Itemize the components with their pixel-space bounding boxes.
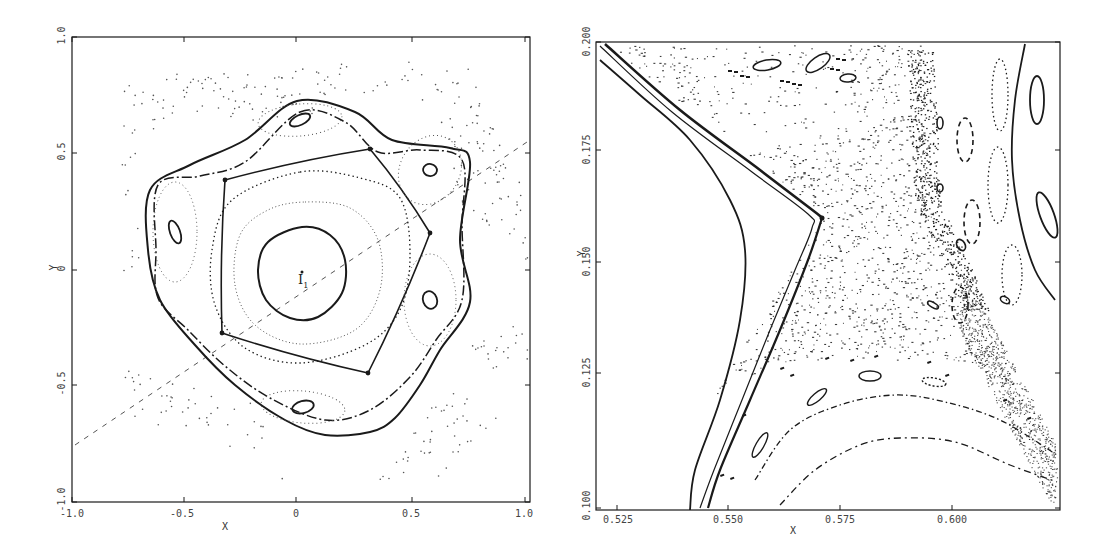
- chaos-dot: [982, 352, 983, 353]
- chaos-dot: [894, 121, 896, 122]
- chaos-dot: [966, 283, 967, 284]
- chaos-dot: [923, 126, 924, 127]
- chaos-dot: [998, 349, 999, 350]
- chaos-dot: [1022, 438, 1023, 439]
- chaos-dot: [403, 458, 405, 460]
- chaos-dot: [924, 71, 925, 72]
- chaos-dot: [880, 160, 881, 161]
- chaos-dot: [855, 70, 856, 71]
- chaos-dot: [823, 69, 824, 70]
- dashed-island-oval: [957, 118, 973, 162]
- chaos-dot: [907, 271, 909, 272]
- chaos-dot: [1003, 358, 1004, 359]
- chaos-dot: [943, 242, 944, 243]
- chaos-dot: [912, 121, 913, 122]
- island-dash: [825, 357, 829, 360]
- chaos-dot: [918, 295, 919, 296]
- chaos-dot: [917, 189, 918, 190]
- chaos-dot: [1007, 391, 1008, 392]
- chaos-dot: [1019, 384, 1020, 385]
- chaos-dot: [813, 180, 814, 181]
- chaos-dot: [341, 64, 343, 66]
- chaos-dot: [935, 212, 936, 213]
- left-x-tick-0: 0: [293, 508, 299, 519]
- chaos-dot: [206, 422, 208, 424]
- chaos-dot: [942, 243, 943, 244]
- chaos-dot: [936, 102, 937, 103]
- chaos-dot: [483, 340, 485, 342]
- chaos-dot: [793, 189, 795, 190]
- chaos-dot: [199, 418, 201, 420]
- chaos-dot: [912, 157, 913, 158]
- chaos-dot: [917, 96, 918, 97]
- chaos-dot: [1020, 437, 1021, 438]
- chaos-dot: [898, 230, 900, 231]
- chaos-dot: [899, 144, 900, 145]
- chaos-dot: [935, 294, 937, 295]
- chaos-dot: [913, 99, 914, 100]
- chaos-dot: [228, 98, 230, 100]
- chaos-dot: [909, 278, 911, 279]
- chaos-dot: [841, 340, 842, 341]
- chaos-dot: [316, 71, 318, 73]
- chaos-dot: [930, 100, 931, 101]
- chaos-dot: [792, 320, 793, 321]
- chaos-dot: [879, 326, 881, 327]
- chaos-dot: [988, 378, 989, 379]
- chaos-dot: [942, 231, 943, 232]
- chaos-dot: [936, 229, 937, 230]
- chaos-dot: [922, 197, 923, 198]
- chaos-dot: [718, 122, 719, 123]
- chaos-dot: [952, 274, 953, 275]
- chaos-dot: [809, 305, 810, 306]
- chaos-dot: [822, 61, 823, 62]
- chaos-dot: [961, 310, 962, 311]
- chaos-dot: [920, 77, 921, 78]
- chaos-dot: [827, 255, 828, 256]
- chaos-dot: [982, 358, 983, 359]
- chaos-dot: [937, 179, 938, 180]
- chaos-dot: [923, 206, 925, 207]
- chaos-dot: [1003, 386, 1004, 387]
- chaos-dot: [886, 61, 887, 62]
- chaos-dot: [215, 82, 217, 84]
- chaos-dot: [875, 231, 877, 232]
- chaos-dot: [795, 351, 797, 352]
- chaos-dot: [884, 343, 886, 344]
- chaos-dot: [953, 251, 954, 252]
- chaos-dot: [927, 209, 928, 210]
- chaos-dot: [823, 229, 825, 230]
- chaos-dot: [718, 94, 720, 95]
- chaos-dot: [798, 92, 800, 93]
- chaos-dot: [345, 89, 347, 91]
- chaos-dot: [921, 208, 922, 209]
- chaos-dot: [810, 306, 812, 307]
- chaos-dot: [513, 228, 515, 230]
- chaos-dot: [896, 50, 898, 51]
- chaos-dot: [977, 298, 978, 299]
- chaos-dot: [861, 49, 862, 50]
- chaos-dot: [1013, 430, 1014, 431]
- chaos-dot: [951, 264, 952, 265]
- chaos-dot: [961, 325, 962, 326]
- chaos-dot: [232, 113, 234, 115]
- chaos-dot: [934, 226, 935, 227]
- chaos-dot: [895, 348, 896, 349]
- chaos-dot: [503, 351, 505, 353]
- chaos-dot: [161, 395, 163, 397]
- chaos-dot: [291, 94, 293, 96]
- chaos-dot: [211, 396, 213, 398]
- chaos-dot: [1032, 418, 1033, 419]
- island-dash: [836, 58, 840, 60]
- chaos-dot: [906, 191, 908, 192]
- chaos-dot: [839, 288, 841, 289]
- chaos-dot: [1055, 446, 1056, 447]
- chaos-dot: [911, 107, 912, 108]
- chaos-dot: [869, 67, 871, 68]
- chaos-dot: [867, 68, 868, 69]
- chaos-dot: [1043, 435, 1044, 436]
- chaos-dot: [915, 209, 916, 210]
- chaos-dot: [1023, 449, 1024, 450]
- chaos-dot: [421, 74, 423, 76]
- chaos-dot: [933, 144, 934, 145]
